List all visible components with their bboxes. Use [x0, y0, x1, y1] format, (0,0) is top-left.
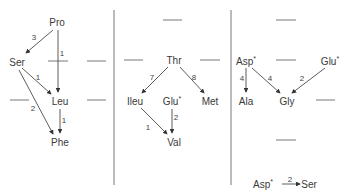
edge-label: 2: [31, 104, 35, 113]
node-phe: Phe: [51, 137, 69, 148]
node-asp: Asp*: [236, 55, 256, 67]
edge-label: 1: [146, 123, 150, 132]
node-leu: Leu: [52, 96, 69, 107]
edge-label: 2: [288, 175, 292, 184]
edge-label: 2: [300, 74, 304, 83]
node-gly: Gly: [280, 96, 295, 107]
edge-label: 1: [62, 116, 66, 125]
node-met: Met: [202, 96, 219, 107]
edge-label: 2: [174, 113, 178, 122]
edge-label: 7: [150, 73, 154, 82]
edge-label: 1: [36, 73, 40, 82]
node-glu2: Glu*: [321, 55, 339, 67]
node-val: Val: [167, 137, 181, 148]
edge-label: 3: [32, 33, 36, 42]
node-thr: Thr: [167, 55, 182, 66]
node-ser: Ser: [9, 57, 25, 68]
node-ileu: Ileu: [127, 96, 143, 107]
edge-label: 4: [268, 74, 272, 83]
edge-label: 8: [192, 73, 196, 82]
node-asp2: Asp*: [253, 178, 273, 190]
node-glu1: Glu*: [163, 95, 181, 107]
node-ser2: Ser: [301, 179, 317, 190]
node-ala: Ala: [239, 96, 253, 107]
edge-label: 1: [60, 49, 64, 58]
node-pro: Pro: [49, 17, 65, 28]
edge-label: 4: [240, 74, 244, 83]
